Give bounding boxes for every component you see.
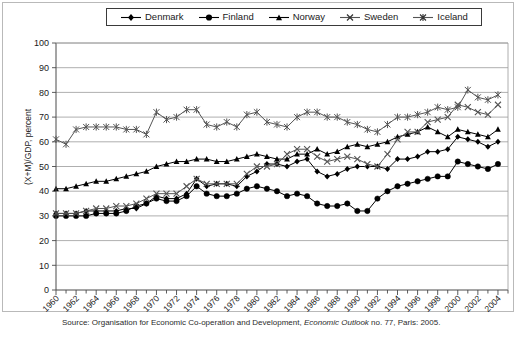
x-tick-label: 1996 xyxy=(402,293,423,314)
y-tick-label: 50 xyxy=(39,162,49,172)
data-point xyxy=(284,193,289,198)
data-point xyxy=(143,131,149,138)
data-point xyxy=(385,189,390,194)
data-point xyxy=(495,139,500,145)
x-tick-label: 2004 xyxy=(482,293,503,314)
x-tick-label: 1974 xyxy=(181,293,202,314)
data-point xyxy=(475,109,481,115)
x-tick-label: 1992 xyxy=(362,293,383,314)
data-point xyxy=(224,118,230,125)
data-point xyxy=(375,196,380,201)
data-point xyxy=(83,213,88,218)
x-tick-label: 2000 xyxy=(442,293,463,314)
data-point xyxy=(405,156,410,162)
data-point xyxy=(465,104,471,110)
data-point xyxy=(314,154,320,160)
data-point xyxy=(495,91,501,98)
data-point xyxy=(415,154,420,160)
data-point xyxy=(495,126,501,132)
data-point xyxy=(144,168,150,174)
data-point xyxy=(455,126,461,132)
data-point xyxy=(475,139,480,145)
data-point xyxy=(73,126,79,133)
data-point xyxy=(355,208,360,213)
x-tick-label: 2002 xyxy=(462,293,483,314)
x-tick-label: 1980 xyxy=(241,293,262,314)
data-point xyxy=(244,111,250,118)
data-point xyxy=(174,198,179,203)
data-point xyxy=(204,191,209,196)
data-point xyxy=(254,184,259,189)
data-point xyxy=(344,154,350,160)
data-point xyxy=(164,198,169,203)
data-point xyxy=(184,183,190,189)
x-tick-label: 1962 xyxy=(61,293,82,314)
data-point xyxy=(314,201,319,206)
y-tick-label: 80 xyxy=(39,88,49,98)
data-point xyxy=(163,116,169,123)
x-axis-ticks: 1960196219641966196819701972197419761978… xyxy=(40,290,508,314)
x-tick-label: 1984 xyxy=(282,293,303,314)
data-point xyxy=(63,141,69,148)
y-tick-label: 70 xyxy=(39,112,49,122)
data-point xyxy=(425,176,430,181)
data-point xyxy=(495,102,501,108)
x-tick-label: 1978 xyxy=(221,293,242,314)
y-tick-label: 40 xyxy=(39,186,49,196)
data-point xyxy=(435,129,441,135)
data-point xyxy=(425,149,430,155)
data-point xyxy=(395,184,400,189)
data-point xyxy=(475,164,480,169)
x-tick-label: 1998 xyxy=(422,293,443,314)
x-tick-label: 1966 xyxy=(101,293,122,314)
data-point xyxy=(234,191,239,196)
data-point xyxy=(465,86,471,93)
data-point xyxy=(465,161,470,166)
source-suffix: no. 77, Paris: 2005. xyxy=(369,318,441,327)
x-tick-label: 1960 xyxy=(40,293,61,314)
series-denmark xyxy=(53,134,500,217)
data-point xyxy=(204,121,210,128)
y-tick-label: 0 xyxy=(44,285,49,295)
data-point xyxy=(335,171,340,177)
x-tick-label: 1988 xyxy=(322,293,343,314)
data-point xyxy=(365,208,370,213)
chart-figure: Denmark Finland Norway Sweden xyxy=(0,0,516,343)
x-tick-label: 1976 xyxy=(201,293,222,314)
data-point xyxy=(234,123,240,130)
data-point xyxy=(364,126,370,133)
data-point xyxy=(264,118,270,125)
data-point xyxy=(445,106,451,113)
series-norway xyxy=(53,124,501,191)
data-point xyxy=(214,123,220,130)
data-point xyxy=(485,166,490,171)
data-point xyxy=(415,111,421,118)
x-tick-label: 1964 xyxy=(81,293,102,314)
y-tick-label: 90 xyxy=(39,63,49,73)
data-point xyxy=(314,146,320,152)
data-point xyxy=(325,203,330,208)
data-point xyxy=(304,193,309,198)
data-point xyxy=(445,174,450,179)
data-point xyxy=(344,118,350,125)
data-point xyxy=(405,181,410,186)
data-point xyxy=(354,156,360,162)
x-tick-label: 1986 xyxy=(302,293,323,314)
data-point xyxy=(334,156,340,162)
data-point xyxy=(214,193,219,198)
data-point xyxy=(154,196,159,201)
data-point xyxy=(254,151,260,157)
y-tick-label: 100 xyxy=(34,38,49,48)
data-point xyxy=(355,164,360,170)
x-tick-label: 1970 xyxy=(141,293,162,314)
data-point xyxy=(254,109,260,116)
data-point xyxy=(294,191,299,196)
data-point xyxy=(274,121,280,128)
data-point xyxy=(485,144,490,150)
data-point xyxy=(435,149,440,155)
source-publication: Economic Outlook xyxy=(304,318,369,327)
y-axis-ticks: 0102030405060708090100 xyxy=(34,38,56,295)
data-point xyxy=(384,121,390,128)
data-point xyxy=(354,121,360,128)
data-point xyxy=(334,149,340,155)
